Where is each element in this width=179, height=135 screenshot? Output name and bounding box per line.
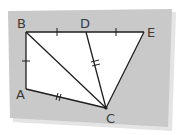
label-B: B <box>17 16 26 31</box>
geometry-diagram: B D E A C <box>0 0 179 135</box>
label-A: A <box>16 87 25 102</box>
label-C: C <box>106 111 115 126</box>
vertex-C-dot <box>104 106 107 109</box>
label-E: E <box>147 25 155 40</box>
label-D: D <box>80 16 90 31</box>
